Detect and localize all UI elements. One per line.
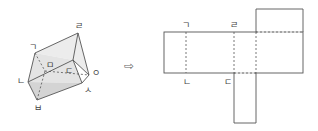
net-label-g: ㄱ: [182, 20, 190, 30]
label-s: ㅅ: [84, 85, 92, 95]
label-g: ㄱ: [29, 42, 37, 52]
label-d: ㄷ: [65, 66, 73, 76]
arrow-icon: ⇨: [124, 59, 134, 73]
prism-diagram: ㄱ ㄹ ㅇ ㄴ ㅁ ㄷ ㅅ ㅂ ⇨ ㄱ ㄹ ㄴ ㄷ: [0, 0, 318, 131]
net-label-n: ㄴ: [183, 77, 191, 87]
net-label-r: ㄹ: [230, 20, 238, 30]
label-n: ㄴ: [17, 76, 25, 86]
label-m: ㅁ: [46, 60, 54, 70]
label-r: ㄹ: [75, 21, 83, 31]
net-label-d: ㄷ: [224, 77, 232, 87]
label-b: ㅂ: [34, 103, 42, 113]
label-o: ㅇ: [92, 68, 100, 78]
